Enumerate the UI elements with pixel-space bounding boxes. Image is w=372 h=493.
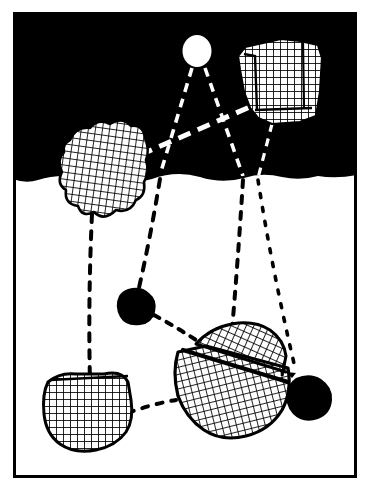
rock-cloud-left	[59, 120, 147, 216]
moon-icon	[183, 35, 212, 67]
illustration-canvas: Night landscape with cross-hatched rocks…	[0, 0, 372, 493]
illustration-svg	[0, 0, 372, 493]
rock-bottom-left	[44, 373, 132, 451]
rock-top-right-facet-edge-3	[303, 43, 304, 108]
